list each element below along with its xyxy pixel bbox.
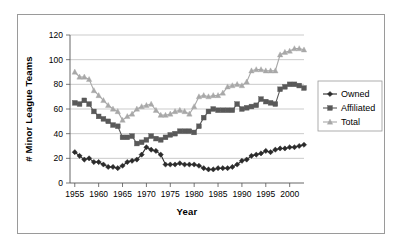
data-point-marker [206,109,211,114]
data-point-marker [278,146,283,151]
data-point-marker [72,100,77,105]
data-point-marker [192,162,197,167]
data-point-marker [125,135,130,140]
data-point-marker [273,147,278,152]
data-point-marker [187,129,192,134]
data-point-marker [134,106,139,111]
data-point-marker [201,115,206,120]
data-point-marker [254,103,259,108]
data-point-marker [82,98,87,103]
legend-label: Owned [341,89,370,99]
data-point-marker [240,107,245,112]
data-point-marker [287,145,292,150]
data-point-marker [259,97,264,102]
data-point-marker [211,107,216,112]
data-point-marker [139,140,144,145]
data-point-marker [287,82,292,87]
x-axis-tick-label: 2000 [280,189,299,199]
x-axis-tick-label: 1985 [209,189,228,199]
data-point-marker [287,48,292,53]
data-point-marker [230,108,235,113]
data-point-marker [96,159,101,164]
data-point-marker [277,52,282,57]
y-axis-tick-label: 0 [58,178,63,188]
data-point-marker [220,166,225,171]
data-point-marker [187,162,192,167]
series-owned [72,142,306,172]
data-point-marker [168,111,173,116]
x-axis-tick-label: 1965 [113,189,132,199]
data-point-marker [110,164,115,169]
y-axis-tick-label: 20 [54,153,64,163]
y-axis-tick-label: 120 [49,30,63,40]
chart-legend: OwnedAffiliatedTotal [318,81,382,131]
legend-label: Total [341,117,360,127]
data-point-marker [258,151,263,156]
data-point-marker [201,166,206,171]
data-point-marker [177,107,182,112]
x-axis-tick-label: 1970 [137,189,156,199]
x-axis-tick-label: 1960 [89,189,108,199]
data-point-marker [115,166,120,171]
data-point-marker [192,130,197,135]
legend-label: Affiliated [341,103,375,113]
data-point-marker [130,134,135,139]
data-point-marker [302,86,307,91]
data-point-marker [191,104,196,109]
data-point-marker [235,102,240,107]
data-point-marker [292,145,297,150]
y-axis-title: # Minor League Teams [23,56,34,162]
y-axis-tick-label: 100 [49,55,63,65]
data-point-marker [154,136,159,141]
data-point-marker [196,163,201,168]
data-point-marker [297,83,302,88]
data-point-marker [244,105,249,110]
data-point-marker [149,147,154,152]
data-point-marker [263,99,268,104]
data-point-marker [101,116,106,121]
data-point-marker [163,135,168,140]
data-point-marker [182,129,187,134]
data-point-marker [77,102,82,107]
data-point-marker [120,135,125,140]
data-point-marker [106,164,111,169]
data-point-marker [134,141,139,146]
data-point-marker [216,108,221,113]
x-axis-tick-label: 1990 [232,189,251,199]
x-axis-tick-label: 1980 [185,189,204,199]
data-point-marker [215,166,220,171]
data-point-marker [115,124,120,129]
data-point-marker [149,134,154,139]
data-point-marker [206,167,211,172]
data-point-marker [297,143,302,148]
data-point-marker [268,150,273,155]
data-point-marker [254,152,259,157]
data-point-marker [268,100,273,105]
data-point-marker [225,108,230,113]
data-point-marker [244,79,249,84]
data-point-marker [86,77,91,82]
line-chart: 0204060801001201955196019651970197519801… [18,15,384,233]
data-point-marker [158,137,163,142]
data-point-marker [249,104,254,109]
data-point-marker [172,162,177,167]
data-point-marker [182,162,187,167]
data-point-marker [282,84,287,89]
data-point-marker [148,101,153,106]
data-point-marker [197,124,202,129]
data-point-marker [201,93,206,98]
data-point-marker [282,146,287,151]
data-point-marker [144,137,149,142]
data-point-marker [106,119,111,124]
data-point-marker [87,102,92,107]
data-point-marker [177,129,182,134]
data-point-marker [292,82,297,87]
data-point-marker [111,123,116,128]
data-point-marker [263,148,268,153]
data-point-marker [328,106,333,111]
data-point-marker [91,109,96,114]
data-point-marker [301,142,306,147]
data-point-marker [225,166,230,171]
data-point-marker [173,131,178,136]
data-point-marker [96,114,101,119]
